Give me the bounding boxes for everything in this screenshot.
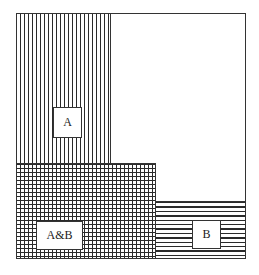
set-overlap-diagram: A A&B B [0,0,259,275]
label-a: A [53,107,82,138]
label-a-text: A [63,115,72,130]
label-b-text: B [202,227,210,242]
label-b: B [192,220,221,249]
region-a-vertical-stripes [16,13,111,164]
label-a-and-b: A&B [36,221,83,250]
label-a-and-b-text: A&B [46,228,72,243]
